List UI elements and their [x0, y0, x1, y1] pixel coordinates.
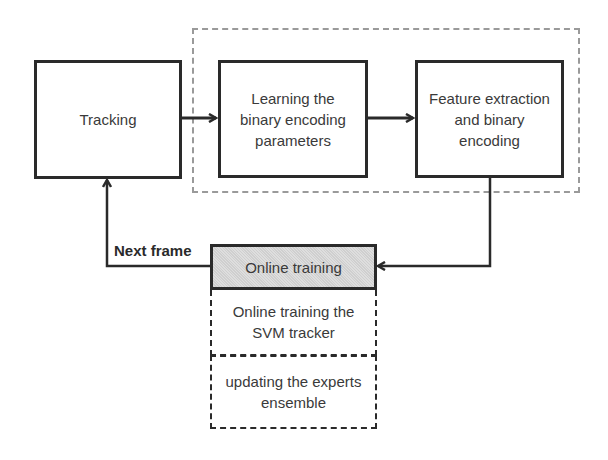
experts-subtask: updating the experts ensemble	[210, 355, 377, 429]
tracking-node: Tracking	[34, 60, 182, 179]
learning-label: Learning the binary encoding parameters	[233, 88, 353, 151]
online-training-node: Online training	[210, 244, 377, 290]
arrow-feature-to-online-training	[378, 177, 490, 266]
experts-label: updating the experts ensemble	[218, 371, 369, 413]
online-training-label: Online training	[245, 257, 342, 278]
learning-node: Learning the binary encoding parameters	[218, 60, 368, 178]
feature-label: Feature extraction and binary encoding	[426, 88, 553, 151]
feature-node: Feature extraction and binary encoding	[415, 60, 564, 178]
svm-label: Online training the SVM tracker	[218, 301, 369, 343]
next-frame-label: Next frame	[114, 242, 192, 259]
tracking-label: Tracking	[80, 109, 137, 130]
svm-subtask: Online training the SVM tracker	[210, 290, 377, 356]
